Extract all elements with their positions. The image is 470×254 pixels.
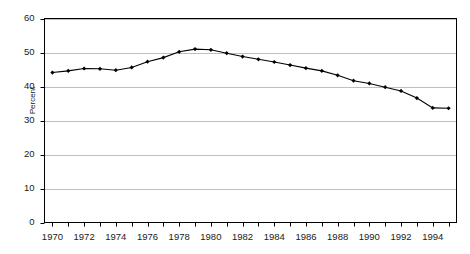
- data-point-marker: [66, 69, 70, 73]
- data-point-marker: [193, 47, 197, 51]
- data-point-marker: [351, 79, 355, 83]
- data-point-marker: [336, 73, 340, 77]
- data-point-marker: [446, 106, 450, 110]
- data-point-marker: [399, 89, 403, 93]
- y-axis-tick-label: 20: [11, 149, 35, 159]
- x-axis-tick-label: 1970: [36, 231, 68, 242]
- x-axis-tick-label: 1974: [100, 231, 132, 242]
- line-chart: Percent 0102030405060 197019721974197619…: [0, 0, 470, 254]
- y-axis-tick-label: 0: [11, 217, 35, 227]
- x-axis-tick-label: 1990: [353, 231, 385, 242]
- data-point-marker: [240, 54, 244, 58]
- plot-area: [0, 0, 470, 254]
- data-point-marker: [130, 65, 134, 69]
- x-axis-tick-label: 1982: [227, 231, 259, 242]
- x-axis-tick-label: 1980: [195, 231, 227, 242]
- plot-border: [45, 19, 457, 223]
- data-point-markers: [50, 47, 450, 110]
- data-point-marker: [114, 68, 118, 72]
- data-point-marker: [98, 67, 102, 71]
- data-point-marker: [320, 69, 324, 73]
- x-axis-tick-label: 1972: [68, 231, 100, 242]
- y-axis-tick-label: 60: [11, 13, 35, 23]
- x-axis-tick-label: 1986: [290, 231, 322, 242]
- gridlines: [45, 20, 457, 190]
- data-point-marker: [383, 85, 387, 89]
- data-series-line: [52, 49, 448, 108]
- data-point-marker: [82, 66, 86, 70]
- data-point-marker: [225, 51, 229, 55]
- x-axis-tick-label: 1988: [322, 231, 354, 242]
- x-axis-tick-label: 1994: [417, 231, 449, 242]
- y-axis-tick-label: 40: [11, 81, 35, 91]
- data-point-marker: [161, 56, 165, 60]
- data-point-marker: [256, 57, 260, 61]
- y-axis-tick-label: 10: [11, 183, 35, 193]
- y-axis-ticks: [41, 20, 45, 224]
- x-axis-tick-label: 1992: [385, 231, 417, 242]
- x-axis-tick-label: 1976: [132, 231, 164, 242]
- data-point-marker: [209, 48, 213, 52]
- data-point-marker: [367, 81, 371, 85]
- y-axis-tick-label: 30: [11, 115, 35, 125]
- data-point-marker: [50, 70, 54, 74]
- data-point-marker: [272, 60, 276, 64]
- data-point-marker: [145, 60, 149, 64]
- y-axis-tick-label: 50: [11, 47, 35, 57]
- x-axis-ticks: [53, 223, 450, 227]
- data-point-marker: [304, 66, 308, 70]
- x-axis-tick-label: 1978: [163, 231, 195, 242]
- x-axis-tick-label: 1984: [258, 231, 290, 242]
- data-point-marker: [288, 63, 292, 67]
